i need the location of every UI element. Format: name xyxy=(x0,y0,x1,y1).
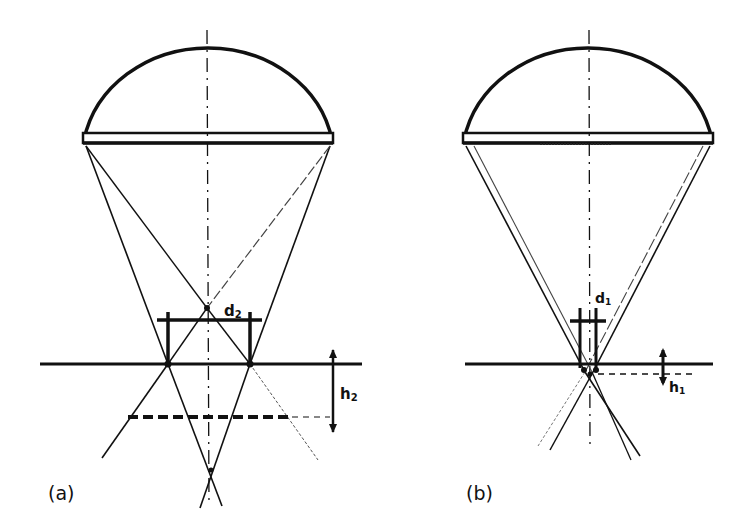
height-dimension-a xyxy=(329,349,337,433)
suspension-line xyxy=(585,146,703,372)
center-axis-a xyxy=(207,30,209,505)
suspension-line xyxy=(250,146,330,364)
parachute-diagram: d2 h2 (a) xyxy=(0,0,748,527)
suspension-line xyxy=(466,146,585,372)
center-axis-b xyxy=(589,30,590,448)
height-label-b: h1 xyxy=(669,379,685,396)
suspension-line xyxy=(593,146,710,372)
canopy-dome-b xyxy=(464,48,712,140)
height-label-a: h2 xyxy=(340,385,358,403)
suspension-line xyxy=(207,146,330,308)
suspension-line xyxy=(86,146,168,364)
suspension-line xyxy=(474,146,592,372)
suspension-line xyxy=(86,146,207,308)
panel-a: d2 h2 (a) xyxy=(40,30,362,508)
panel-label-b: (b) xyxy=(466,482,493,504)
width-label-a: d2 xyxy=(224,302,242,320)
panel-label-a: (a) xyxy=(48,482,74,504)
height-dimension-b xyxy=(659,348,667,386)
width-label-b: d1 xyxy=(595,290,611,307)
panel-b: d1 h1 (b) xyxy=(463,30,713,504)
